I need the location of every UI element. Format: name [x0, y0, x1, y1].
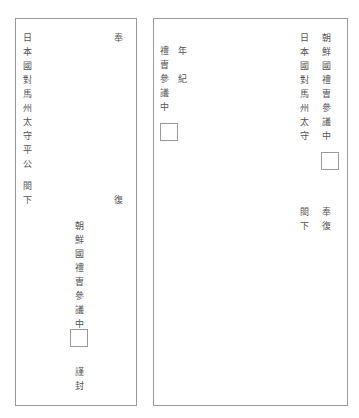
- char: 閤: [300, 205, 309, 219]
- char: 奉: [114, 31, 123, 45]
- char: 封: [75, 379, 84, 393]
- char: 紀: [178, 72, 187, 86]
- left-seal-box: [70, 329, 88, 347]
- char: 參: [75, 289, 84, 303]
- char: 鮮: [322, 45, 331, 59]
- char: 日: [23, 31, 32, 45]
- char: 議: [75, 303, 84, 317]
- right-reply-column: 奉 復: [319, 205, 333, 233]
- char: 鮮: [75, 233, 84, 247]
- char: 曺: [160, 58, 169, 72]
- char: 復: [322, 219, 331, 233]
- right-office-seal-box: [160, 123, 178, 141]
- right-recipient-seal-box: [321, 152, 339, 170]
- char: 禮: [75, 261, 84, 275]
- right-sender-address-column: 日 本 國 對 馬 州 太 守: [297, 31, 311, 143]
- char: 中: [160, 100, 169, 114]
- char: 州: [300, 101, 309, 115]
- left-sender-column: 朝 鮮 國 禮 曺 參 議 中: [72, 219, 86, 331]
- left-closing-column: 謹 封: [72, 365, 86, 393]
- right-date-char-era: 紀: [175, 72, 189, 86]
- char: 曺: [322, 87, 331, 101]
- char: 參: [160, 72, 169, 86]
- char: 平: [23, 143, 32, 157]
- left-mid-right-char: 復: [111, 193, 125, 207]
- char: 參: [322, 101, 331, 115]
- char: 國: [75, 247, 84, 261]
- right-honorific-column: 閤 下: [297, 205, 311, 233]
- char: 禮: [160, 44, 169, 58]
- char: 本: [300, 45, 309, 59]
- char: 馬: [23, 87, 32, 101]
- char: 議: [160, 86, 169, 100]
- char: 國: [300, 59, 309, 73]
- char: 謹: [75, 365, 84, 379]
- char: 守: [300, 129, 309, 143]
- char: 日: [300, 31, 309, 45]
- char: 國: [322, 59, 331, 73]
- right-office-column: 禮 曺 參 議 中: [157, 44, 171, 114]
- char: 朝: [322, 31, 331, 45]
- left-top-right-char: 奉: [111, 31, 125, 45]
- char: 奉: [322, 205, 331, 219]
- char: 中: [322, 129, 331, 143]
- char: 對: [300, 73, 309, 87]
- right-date-char-year: 年: [175, 44, 189, 58]
- char: 公: [23, 157, 32, 171]
- char: 國: [23, 59, 32, 73]
- char: 下: [23, 193, 32, 207]
- char: 年: [178, 44, 187, 58]
- char: 州: [23, 101, 32, 115]
- char: 太: [300, 115, 309, 129]
- char: 太: [23, 115, 32, 129]
- char: 曺: [75, 275, 84, 289]
- char: 守: [23, 129, 32, 143]
- char: 禮: [322, 73, 331, 87]
- char: 議: [322, 115, 331, 129]
- char: 下: [300, 219, 309, 233]
- char: 復: [114, 193, 123, 207]
- char: 閤: [23, 179, 32, 193]
- char: 本: [23, 45, 32, 59]
- left-address-column: 日 本 國 對 馬 州 太 守 平 公: [20, 31, 34, 171]
- right-recipient-column: 朝 鮮 國 禮 曺 參 議 中: [319, 31, 333, 143]
- char: 馬: [300, 87, 309, 101]
- left-honorific-column: 閤 下: [20, 179, 34, 207]
- char: 朝: [75, 219, 84, 233]
- char: 對: [23, 73, 32, 87]
